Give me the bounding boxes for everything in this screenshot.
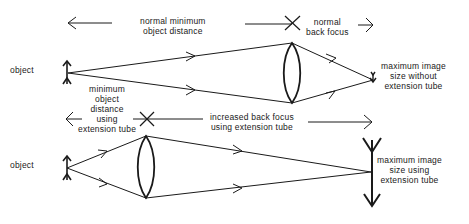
lens-top — [284, 43, 301, 103]
normal-back-focus-label: normal back focus — [306, 17, 349, 37]
arrow-left-top — [68, 17, 112, 29]
x-marker-top — [285, 16, 300, 30]
label-line: size without — [381, 71, 446, 81]
label-line: extension tube — [78, 124, 136, 134]
label-line: increased back focus — [210, 112, 294, 122]
label-line: normal minimum — [140, 16, 206, 26]
label-line: extension tube — [381, 81, 446, 91]
label-line: using extension tube — [210, 122, 294, 132]
label-line: size using — [377, 165, 442, 175]
increased-back-focus-label: increased back focus using extension tub… — [210, 112, 294, 132]
label-line: maximum image — [381, 61, 446, 71]
object-label-bottom: object — [10, 160, 34, 170]
label-line: extension tube — [377, 175, 442, 185]
lens-bottom — [138, 136, 155, 198]
label-line: distance — [78, 104, 136, 114]
label-line: object distance — [140, 26, 206, 36]
label-line: using — [78, 114, 136, 124]
object-label-top: object — [10, 65, 34, 75]
label-line: back focus — [306, 27, 349, 37]
image-label-bottom: maximum image size using extension tube — [377, 155, 442, 185]
min-distance-ext-label: minimum object distance using extension … — [78, 84, 136, 134]
label-line: minimum — [78, 84, 136, 94]
label-line: maximum image — [377, 155, 442, 165]
arrow-right-top — [358, 18, 373, 32]
image-label-top: maximum image size without extension tub… — [381, 61, 446, 91]
label-line: object — [78, 94, 136, 104]
arrow-right-bottom — [308, 115, 372, 129]
normal-min-distance-label: normal minimum object distance — [140, 16, 206, 36]
label-line: normal — [306, 17, 349, 27]
